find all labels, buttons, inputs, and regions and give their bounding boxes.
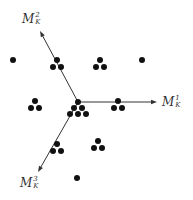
- cluster-point: [93, 64, 99, 70]
- label-subscript: K: [33, 183, 38, 190]
- axis-label-m2: M2K: [22, 12, 41, 26]
- center-cluster-point: [75, 99, 81, 105]
- center-cluster-point: [67, 111, 73, 117]
- arrow-head-m2-icon: [40, 31, 45, 37]
- cluster-point: [50, 64, 56, 70]
- axis-label-m3: M3K: [20, 176, 39, 190]
- cluster-point: [91, 145, 97, 151]
- cluster-point: [28, 105, 34, 111]
- cluster-point: [97, 57, 103, 63]
- cluster-point: [115, 98, 121, 104]
- cluster-point: [101, 64, 107, 70]
- cluster-point: [111, 105, 117, 111]
- center-cluster-point: [71, 105, 77, 111]
- axis-m3-line: [40, 102, 78, 169]
- cluster-point: [32, 98, 38, 104]
- label-subscript: K: [175, 102, 180, 109]
- data-points-group: [10, 57, 145, 181]
- label-base: M: [22, 12, 34, 26]
- single-point: [139, 57, 145, 63]
- label-base: M: [162, 95, 174, 109]
- label-base: M: [20, 176, 32, 190]
- center-cluster-point: [75, 111, 81, 117]
- arrow-head-m1-icon: [151, 100, 157, 104]
- cluster-point: [50, 148, 56, 154]
- single-point: [10, 57, 16, 63]
- cluster-point: [58, 148, 64, 154]
- center-cluster-point: [83, 111, 89, 117]
- cluster-point: [58, 64, 64, 70]
- cluster-point: [54, 141, 60, 147]
- center-cluster-point: [79, 105, 85, 111]
- single-point: [74, 175, 80, 181]
- label-subscript: K: [35, 19, 40, 26]
- cluster-point: [99, 145, 105, 151]
- axis-label-m1: M1K: [162, 95, 181, 109]
- cluster-point: [36, 105, 42, 111]
- cluster-point: [119, 105, 125, 111]
- cluster-point: [54, 57, 60, 63]
- arrow-head-m3-icon: [38, 166, 43, 172]
- cluster-point: [95, 138, 101, 144]
